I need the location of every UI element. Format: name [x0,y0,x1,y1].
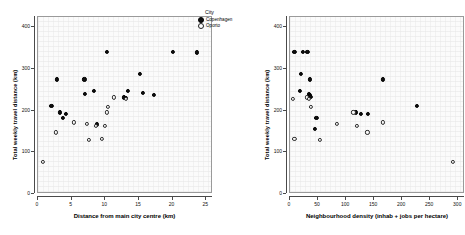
data-point [41,160,45,164]
data-point [305,49,309,53]
data-point [171,49,175,53]
data-point [105,49,109,53]
data-point [92,89,96,93]
x-tick-label: 20 [169,201,175,207]
y-tick [283,68,286,69]
y-tick [283,110,286,111]
y-tick-label: 200 [264,107,282,113]
data-point [106,104,110,108]
data-point [53,130,57,134]
left-points-layer [38,17,211,192]
x-tick-label: 0 [36,201,39,207]
data-point [55,77,59,81]
x-tick-label: 15 [135,201,141,207]
x-tick [172,197,173,200]
legend-entry-oporto[interactable]: Oporto [198,23,258,29]
data-point [313,127,317,131]
x-tick [317,197,318,200]
data-point [112,95,116,99]
data-point [291,97,295,101]
y-tick-label: 0 [264,190,282,196]
data-point [138,72,142,76]
data-point [152,93,156,97]
data-point [87,138,91,142]
y-tick [31,193,34,194]
data-point [100,137,104,141]
left-plot-area [37,16,212,193]
filled-circle-icon [198,17,204,23]
data-point [365,130,369,134]
data-point [94,124,98,128]
right-plot-area [289,16,464,193]
right-x-axis-line [289,196,464,197]
data-point [314,116,318,120]
y-tick [283,151,286,152]
y-tick-label: 300 [264,65,282,71]
left-y-axis-title: Total weekly travel distance (km) [12,70,18,160]
x-tick [373,197,374,200]
y-tick-label: 100 [12,148,30,154]
x-tick [289,197,290,200]
x-tick [401,197,402,200]
x-tick-label: 100 [341,201,349,207]
data-point [57,110,61,114]
data-point [309,104,313,108]
data-point [85,122,89,126]
right-y-axis-line [286,16,287,193]
scatter-plot-figure: Total weekly travel distance (km) 051015… [0,0,465,235]
x-tick [457,197,458,200]
data-point [141,91,145,95]
y-tick-label: 0 [12,190,30,196]
open-circle-icon [198,23,204,29]
x-tick [71,197,72,200]
data-point [292,49,296,53]
right-x-axis-title: Neighbourhood density (inhab + jobs per … [282,213,465,219]
x-tick [205,197,206,200]
data-point [103,124,107,128]
legend-label-oporto: Oporto [206,23,220,28]
left-y-axis-line [34,16,35,193]
data-point [308,77,312,81]
y-tick [31,151,34,152]
legend-title: City [198,9,258,15]
x-tick [104,197,105,200]
x-tick-label: 150 [369,201,377,207]
x-tick-label: 50 [314,201,320,207]
x-tick-label: 10 [102,201,108,207]
x-tick-label: 300 [453,201,461,207]
data-point [415,104,419,108]
data-point [381,77,385,81]
data-point [125,89,129,93]
data-point [105,110,109,114]
data-point [299,72,303,76]
x-tick [429,197,430,200]
data-point [82,77,86,81]
y-tick [283,26,286,27]
right-y-axis-title: Total weekly travel distance (km) [264,70,270,160]
data-point [306,97,310,101]
data-point [72,120,76,124]
data-point [318,138,322,142]
x-tick-label: 0 [288,201,291,207]
data-point [366,112,370,116]
data-point [359,112,363,116]
data-point [292,137,296,141]
y-tick [31,68,34,69]
y-tick-label: 100 [264,148,282,154]
data-point [298,89,302,93]
data-point [381,120,385,124]
data-point [61,116,65,120]
data-point [195,50,199,54]
left-x-axis-line [37,196,212,197]
data-point [83,92,87,96]
x-tick [37,197,38,200]
data-point [123,97,127,101]
y-tick-label: 200 [12,107,30,113]
y-tick [283,193,286,194]
y-tick-label: 400 [264,23,282,29]
y-tick-label: 300 [12,65,30,71]
y-tick [31,26,34,27]
right-points-layer [290,17,463,192]
data-point [49,104,53,108]
legend-label-copenhagen: Copenhagen [206,17,232,22]
